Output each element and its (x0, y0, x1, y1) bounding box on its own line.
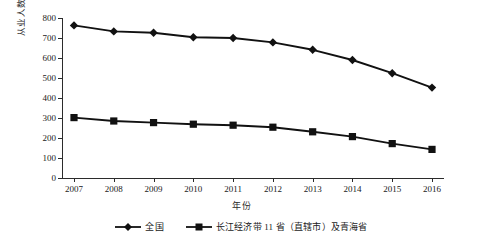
data-point-square (349, 133, 356, 140)
legend-item-national[interactable]: 全国 (115, 220, 163, 233)
x-tick-label: 2010 (184, 184, 202, 194)
data-point-diamond (308, 46, 316, 54)
data-point-square (269, 124, 276, 131)
series-1 (70, 21, 436, 92)
data-point-square (428, 146, 435, 153)
x-tick-mark (233, 178, 234, 182)
x-tick-mark (193, 178, 194, 182)
line-chart-figure: 从业人数/万人 0100200300400500600700800 200720… (0, 0, 483, 252)
data-point-diamond (428, 83, 436, 91)
x-tick-label: 2012 (264, 184, 282, 194)
diamond-marker-icon (115, 222, 141, 232)
y-tick-label: 300 (43, 113, 57, 123)
x-tick-mark (313, 178, 314, 182)
y-tick-label: 500 (43, 73, 57, 83)
x-tick-mark (432, 178, 433, 182)
x-tick-label: 2015 (383, 184, 401, 194)
x-tick-mark (154, 178, 155, 182)
series-2 (70, 114, 435, 153)
y-axis-title: 从业人数/万人 (14, 0, 26, 36)
x-tick-label: 2014 (343, 184, 361, 194)
data-point-square (150, 119, 157, 126)
y-tick-label: 0 (52, 173, 57, 183)
data-point-diamond (189, 33, 197, 41)
square-marker-icon (186, 222, 212, 232)
data-point-diamond (70, 21, 78, 29)
data-point-square (70, 114, 77, 121)
y-tick-label: 800 (43, 13, 57, 23)
legend-label-yangtze: 长江经济带 11 省（直辖市）及青海省 (216, 220, 368, 233)
plot-area: 0100200300400500600700800 20072008200920… (62, 18, 444, 178)
data-point-square (190, 121, 197, 128)
data-point-square (230, 122, 237, 129)
data-point-diamond (110, 27, 118, 35)
data-point-diamond (269, 38, 277, 46)
data-point-diamond (348, 56, 356, 64)
x-tick-mark (352, 178, 353, 182)
x-axis-title: 年份 (0, 199, 483, 212)
data-point-diamond (229, 34, 237, 42)
series-line (74, 118, 432, 150)
x-tick-label: 2016 (423, 184, 441, 194)
y-tick-label: 200 (43, 133, 57, 143)
y-tick-label: 400 (43, 93, 57, 103)
series-layer (62, 18, 444, 178)
y-tick-mark (58, 178, 62, 179)
legend-label-national: 全国 (145, 220, 163, 233)
y-axis-title-container: 从业人数/万人 (0, 0, 24, 190)
x-tick-label: 2013 (304, 184, 322, 194)
y-tick-label: 600 (43, 53, 57, 63)
data-point-square (389, 140, 396, 147)
x-tick-mark (114, 178, 115, 182)
data-point-square (309, 128, 316, 135)
series-line (74, 25, 432, 87)
x-tick-label: 2011 (224, 184, 242, 194)
x-axis-line (62, 178, 444, 179)
x-tick-label: 2008 (105, 184, 123, 194)
x-tick-mark (74, 178, 75, 182)
data-point-diamond (149, 29, 157, 37)
x-tick-label: 2009 (145, 184, 163, 194)
legend-item-yangtze[interactable]: 长江经济带 11 省（直辖市）及青海省 (186, 220, 368, 233)
chart-legend: 全国 长江经济带 11 省（直辖市）及青海省 (0, 220, 483, 233)
y-tick-label: 700 (43, 33, 57, 43)
y-tick-label: 100 (43, 153, 57, 163)
data-point-diamond (388, 69, 396, 77)
x-tick-mark (273, 178, 274, 182)
x-tick-mark (392, 178, 393, 182)
x-tick-label: 2007 (65, 184, 83, 194)
data-point-square (110, 117, 117, 124)
